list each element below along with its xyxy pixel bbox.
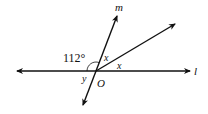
label-m: m [115, 1, 123, 13]
label-angle-112: 112° [63, 51, 86, 65]
angle-diagram: m l O 112° x x y [0, 0, 208, 114]
ray [96, 24, 175, 71]
label-x-upper: x [103, 52, 109, 63]
label-O: O [97, 77, 105, 89]
label-x-lower: x [116, 60, 122, 71]
label-y: y [81, 73, 87, 84]
label-l: l [194, 65, 197, 77]
